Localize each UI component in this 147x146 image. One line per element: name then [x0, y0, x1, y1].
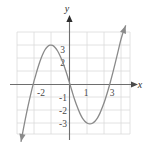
- x-axis-label: x: [137, 79, 143, 90]
- x-tick-label-1: 1: [84, 88, 89, 98]
- x-axis: [10, 81, 138, 87]
- x-tick-label-3: 3: [110, 88, 115, 98]
- y-tick-label-neg3: -3: [59, 119, 67, 129]
- y-tick-label-3: 3: [60, 45, 65, 55]
- graph-canvas: x y 3 2 -1 -2 -3 -2 1 3: [0, 0, 147, 146]
- graph-figure: x y 3 2 -1 -2 -3 -2 1 3: [0, 0, 147, 146]
- cubic-curve: [21, 26, 126, 142]
- y-tick-label-neg2: -2: [59, 106, 67, 116]
- y-tick-label-neg1: -1: [59, 93, 67, 103]
- curve-start-arrow-icon: [19, 133, 25, 141]
- y-axis-arrow-icon: [66, 15, 72, 22]
- x-tick-label-neg2: -2: [37, 88, 45, 98]
- y-axis-label: y: [64, 3, 70, 14]
